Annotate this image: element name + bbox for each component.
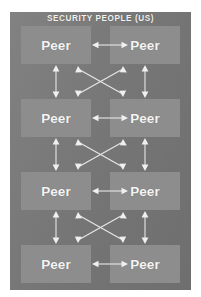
peer-row: Peer Peer — [10, 26, 191, 64]
horizontal-double-arrow-icon — [91, 99, 129, 137]
peer-connector-band — [10, 64, 191, 99]
diagram-canvas: SECURITY PEOPLE (US) Peer Peer — [0, 0, 201, 297]
peer-node-label: Peer — [130, 257, 160, 272]
vertical-double-arrow-icon — [53, 65, 60, 98]
peer-node[interactable]: Peer — [21, 99, 91, 137]
horizontal-double-arrow-icon — [91, 26, 129, 64]
horizontal-double-arrow-icon — [91, 172, 129, 210]
peer-node-label: Peer — [130, 38, 160, 53]
cross-double-arrow-icon — [75, 139, 127, 170]
peer-row: Peer Peer — [10, 99, 191, 137]
peer-node-label: Peer — [41, 184, 71, 199]
vertical-double-arrow-icon — [53, 211, 60, 244]
vertical-double-arrow-icon — [53, 138, 60, 171]
vertical-double-arrow-icon — [142, 138, 149, 171]
peer-node-label: Peer — [130, 111, 160, 126]
peer-row: Peer Peer — [10, 172, 191, 210]
cross-double-arrow-icon — [75, 212, 127, 243]
peer-node[interactable]: Peer — [21, 26, 91, 64]
peer-node-label: Peer — [41, 38, 71, 53]
diagram-title: SECURITY PEOPLE (US) — [10, 14, 191, 23]
diagram-panel: SECURITY PEOPLE (US) Peer Peer — [10, 12, 191, 290]
horizontal-double-arrow-icon — [91, 245, 129, 283]
peer-connector-band — [10, 137, 191, 172]
peer-node-label: Peer — [130, 184, 160, 199]
peer-node[interactable]: Peer — [21, 172, 91, 210]
vertical-double-arrow-icon — [142, 211, 149, 244]
peer-row: Peer Peer — [10, 245, 191, 283]
cross-double-arrow-icon — [75, 66, 127, 97]
vertical-double-arrow-icon — [142, 65, 149, 98]
peer-connector-band — [10, 210, 191, 245]
peer-node[interactable]: Peer — [21, 245, 91, 283]
peer-node-label: Peer — [41, 111, 71, 126]
peer-node-label: Peer — [41, 257, 71, 272]
